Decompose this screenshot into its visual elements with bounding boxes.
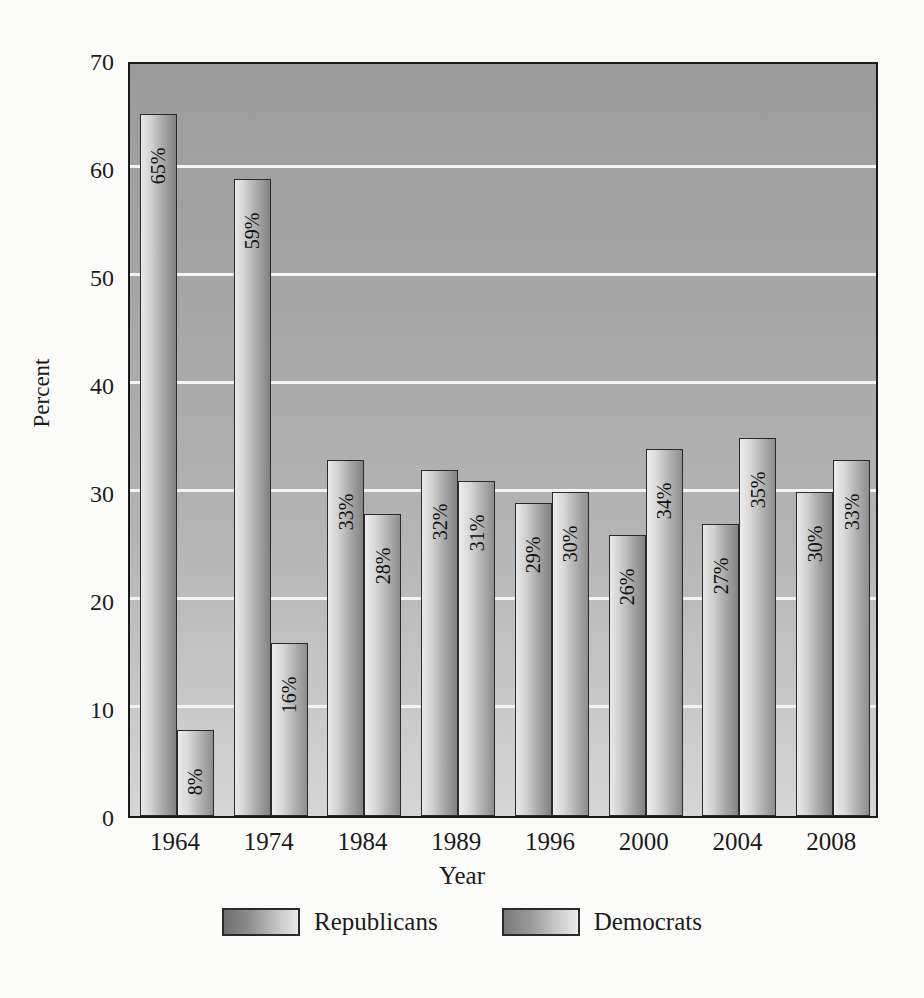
bar-rep-2004: 27% — [702, 524, 739, 816]
bar-value-label: 28% — [371, 547, 394, 584]
bar-value-label-wrap: 30% — [553, 499, 588, 589]
legend-label: Republicans — [314, 908, 438, 936]
bar-value-label-wrap: 33% — [328, 467, 363, 557]
bar-value-label: 32% — [428, 504, 451, 541]
bar-dem-1964: 8% — [177, 730, 214, 816]
y-axis-ticks: 010203040506070 — [48, 62, 114, 818]
legend-label: Democrats — [594, 908, 702, 936]
bar-dem-1984: 28% — [364, 514, 401, 816]
y-axis-title: Percent — [29, 333, 55, 453]
x-axis-tick-label: 1996 — [525, 828, 575, 856]
y-axis-tick-label: 30 — [54, 481, 114, 508]
x-axis-tick-label: 2004 — [712, 828, 762, 856]
bar-value-label-wrap: 26% — [610, 542, 645, 632]
bar-rep-2000: 26% — [609, 535, 646, 816]
y-axis-tick-label: 0 — [54, 805, 114, 832]
bar-value-label-wrap: 8% — [178, 737, 213, 818]
bar-rep-1989: 32% — [421, 470, 458, 816]
bar-value-label: 29% — [522, 536, 545, 573]
bar-value-label: 33% — [334, 493, 357, 530]
chart-legend: RepublicansDemocrats — [0, 908, 924, 936]
bar-value-label-wrap: 16% — [272, 650, 307, 740]
bar-value-label-wrap: 65% — [141, 121, 176, 211]
plot-inner: 65%8%59%16%33%28%32%31%29%30%26%34%27%35… — [130, 64, 876, 816]
y-axis-tick-label: 40 — [54, 373, 114, 400]
bar-value-label: 16% — [278, 677, 301, 714]
bar-value-label: 35% — [746, 472, 769, 509]
bar-value-label-wrap: 35% — [740, 445, 775, 535]
bar-value-label: 30% — [803, 526, 826, 563]
bar-value-label: 8% — [184, 768, 207, 795]
bar-rep-1964: 65% — [140, 114, 177, 816]
bar-value-label-wrap: 32% — [422, 477, 457, 567]
x-axis-tick-label: 1989 — [431, 828, 481, 856]
legend-swatch-rep — [222, 908, 300, 936]
bar-value-label: 26% — [616, 569, 639, 606]
bar-value-label: 33% — [840, 493, 863, 530]
y-axis-tick-label: 60 — [54, 157, 114, 184]
bar-value-label: 30% — [559, 526, 582, 563]
plot-area: 65%8%59%16%33%28%32%31%29%30%26%34%27%35… — [128, 62, 878, 818]
bar-dem-1974: 16% — [271, 643, 308, 816]
y-axis-tick-label: 70 — [54, 49, 114, 76]
bar-dem-2000: 34% — [646, 449, 683, 816]
bar-value-label-wrap: 31% — [459, 488, 494, 578]
bar-value-label: 34% — [653, 482, 676, 519]
bar-value-label: 31% — [465, 515, 488, 552]
bar-value-label-wrap: 34% — [647, 456, 682, 546]
bar-value-label-wrap: 30% — [797, 499, 832, 589]
bar-rep-2008: 30% — [796, 492, 833, 816]
y-axis-tick-label: 20 — [54, 589, 114, 616]
x-axis-tick-label: 1964 — [150, 828, 200, 856]
legend-item-dem[interactable]: Democrats — [502, 908, 702, 936]
bar-dem-2008: 33% — [833, 460, 870, 816]
bar-value-label-wrap: 28% — [365, 521, 400, 611]
bar-value-label-wrap: 29% — [516, 510, 551, 600]
bar-dem-1989: 31% — [458, 481, 495, 816]
bar-dem-1996: 30% — [552, 492, 589, 816]
legend-item-rep[interactable]: Republicans — [222, 908, 438, 936]
bar-value-label: 65% — [147, 148, 170, 185]
bar-value-label: 59% — [241, 212, 264, 249]
bar-value-label: 27% — [709, 558, 732, 595]
x-axis-tick-label: 2008 — [806, 828, 856, 856]
x-axis-tick-label: 2000 — [619, 828, 669, 856]
x-axis-tick-label: 1984 — [337, 828, 387, 856]
gridline — [130, 165, 876, 168]
bar-dem-2004: 35% — [739, 438, 776, 816]
bar-value-label-wrap: 59% — [235, 186, 270, 276]
y-axis-tick-label: 10 — [54, 697, 114, 724]
bar-rep-1974: 59% — [234, 179, 271, 816]
bar-value-label-wrap: 33% — [834, 467, 869, 557]
x-axis-title: Year — [0, 862, 924, 890]
x-axis-tick-label: 1974 — [244, 828, 294, 856]
bar-rep-1996: 29% — [515, 503, 552, 816]
legend-swatch-dem — [502, 908, 580, 936]
bar-rep-1984: 33% — [327, 460, 364, 816]
bar-value-label-wrap: 27% — [703, 531, 738, 621]
y-axis-tick-label: 50 — [54, 265, 114, 292]
